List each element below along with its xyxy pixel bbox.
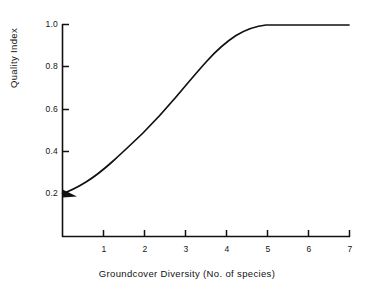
y-tick-label-1.0: 1.0: [34, 19, 58, 29]
x-tick-label-4: 4: [225, 244, 230, 254]
x-tick-label-1: 1: [102, 244, 107, 254]
y-tick-label-0.2: 0.2: [34, 188, 58, 198]
x-tick-label-3: 3: [184, 244, 189, 254]
chart-figure: 1.0 0.8 0.6 0.4 0.2 1 2 3 4 5 6 7 Ground…: [0, 0, 374, 297]
x-tick-label-5: 5: [266, 244, 271, 254]
x-tick-label-6: 6: [307, 244, 312, 254]
y-tick-label-0.8: 0.8: [34, 61, 58, 71]
x-tick-label-7: 7: [348, 244, 353, 254]
y-tick-label-0.4: 0.4: [34, 146, 58, 156]
x-tick-label-2: 2: [143, 244, 148, 254]
y-tick-label-0.6: 0.6: [34, 104, 58, 114]
data-series-quality-index: [63, 25, 350, 194]
x-axis-label: Groundcover Diversity (No. of species): [0, 268, 374, 279]
y-axis-label: Quality Index: [8, 8, 19, 88]
